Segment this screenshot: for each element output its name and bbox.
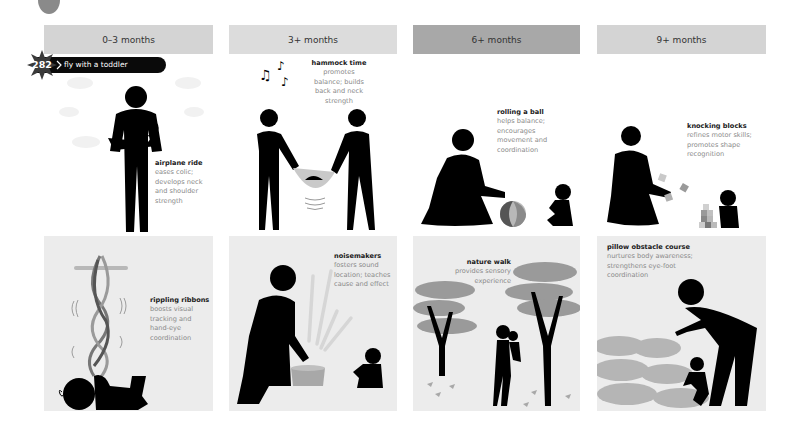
activity-description-line: strengthens eye-foot [607,262,676,270]
activity-caption: noisemakers fosters sound location; teac… [334,252,390,290]
activity-caption: knocking blocks refines motor skills; pr… [687,122,752,160]
activity-description-line: fosters sound [334,261,379,269]
activity-panel-pillow-obstacle-course: pillow obstacle course nurtures body awa… [597,236,766,411]
activity-description-line: strength [325,97,353,105]
activity-description-line: and shoulder [155,187,198,195]
activity-description-line: helps balance; [497,117,545,125]
activity-title: hammock time [299,59,379,68]
activity-description-line: develops neck [155,178,202,186]
activity-description-line: experience [474,277,511,285]
activity-panel-rolling-a-ball: rolling a ball helps balance; encourages… [413,56,580,232]
activity-description-line: coordination [497,146,538,154]
badge-number: 282 [27,50,57,80]
chevron-right-icon [56,60,62,70]
activity-title: noisemakers [334,252,390,261]
column-header-0-3-months: 0–3 months [44,25,213,54]
activity-caption: pillow obstacle course nurtures body awa… [607,243,693,281]
activity-title: nature walk [443,258,511,267]
activity-description-line: boosts visual [150,305,193,313]
music-notes-icon: ♫ ♪ ♪ [259,59,289,89]
activity-description-line: movement and [497,136,547,144]
column-header-label: 0–3 months [102,35,155,45]
activity-caption: nature walk provides sensory experience [443,258,511,286]
activity-description-line: eases colic; [155,168,193,176]
svg-text:♫: ♫ [259,67,272,83]
activity-panel-airplane-ride: airplane ride eases colic; develops neck… [44,56,213,232]
activity-panel-rippling-ribbons: rippling ribbons boosts visual tracking … [44,236,213,411]
activity-panel-knocking-blocks: knocking blocks refines motor skills; pr… [597,56,766,232]
activity-description-line: encourages [497,127,536,135]
activity-description-line: balance; builds [314,78,364,86]
activity-description-line: nurtures body awareness; [607,252,693,260]
svg-text:♪: ♪ [277,59,285,73]
activity-description-line: promotes [323,68,354,76]
activity-description-line: promotes shape [687,141,740,149]
section-title: fly with a toddler [64,57,128,73]
activity-description-line: back and neck [315,87,363,95]
column-header-6-months: 6+ months [413,25,580,54]
page-corner-marker [38,0,60,14]
activity-panel-nature-walk: nature walk provides sensory experience [413,236,580,411]
column-header-label: 3+ months [288,35,338,45]
activity-description-line: refines motor skills; [687,131,752,139]
activity-caption: airplane ride eases colic; develops neck… [155,159,203,206]
activity-panel-hammock-time: ♫ ♪ ♪ hammock time promotes balance; bui… [229,56,397,232]
activity-title: rolling a ball [497,108,547,117]
activity-title: rippling ribbons [150,296,209,305]
column-header-label: 6+ months [471,35,521,45]
activity-caption: rippling ribbons boosts visual tracking … [150,296,209,343]
activity-title: pillow obstacle course [607,243,693,252]
activity-description-line: hand-eye [150,324,181,332]
activity-caption: hammock time promotes balance; builds ba… [299,59,379,106]
column-header-label: 9+ months [656,35,706,45]
activity-description-line: strength [155,197,183,205]
activity-description-line: provides sensory [455,267,511,275]
column-header-9-months: 9+ months [597,25,766,54]
activity-description-line: recognition [687,150,724,158]
activity-panel-noisemakers: noisemakers fosters sound location; teac… [229,236,397,411]
column-header-3-months: 3+ months [229,25,397,54]
activity-description-line: coordination [150,334,191,342]
activity-description-line: tracking and [150,315,191,323]
activity-description-line: coordination [607,271,648,279]
activity-title: airplane ride [155,159,203,168]
activity-title: knocking blocks [687,122,752,131]
activity-description-line: cause and effect [334,280,389,288]
svg-text:♪: ♪ [281,75,289,89]
activity-description-line: location; teaches [334,271,390,279]
activity-caption: rolling a ball helps balance; encourages… [497,108,547,155]
